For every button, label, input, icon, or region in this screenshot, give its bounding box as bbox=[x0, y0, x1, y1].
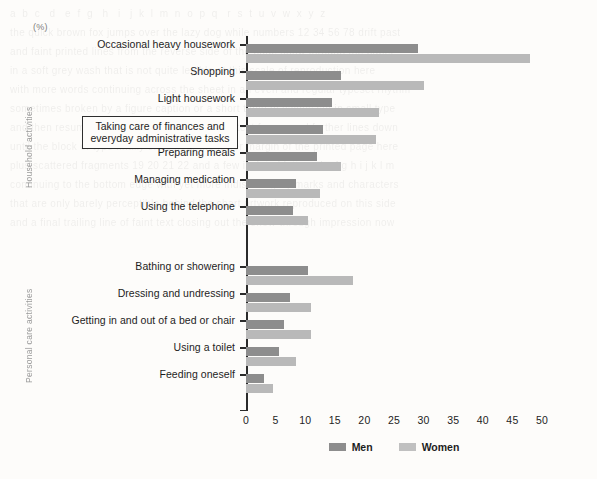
x-axis-tick-label: 10 bbox=[299, 414, 311, 426]
category-label: Light housework bbox=[158, 92, 235, 104]
category-label: Feeding oneself bbox=[160, 368, 235, 380]
bar-men bbox=[246, 98, 332, 107]
bar-men bbox=[246, 374, 264, 383]
x-axis-tick-label: 35 bbox=[447, 414, 459, 426]
category-label: Managing medication bbox=[134, 173, 235, 185]
x-axis-tick-label: 25 bbox=[388, 414, 400, 426]
bar-men bbox=[246, 293, 290, 302]
x-axis-tick-label: 20 bbox=[358, 414, 370, 426]
legend-swatch-women bbox=[399, 443, 416, 451]
bar-women bbox=[246, 216, 308, 225]
category-label-highlighted: Taking care of finances and everyday adm… bbox=[82, 116, 238, 149]
x-axis-tick-label: 0 bbox=[243, 414, 249, 426]
group-label-personal: Personal care activities bbox=[24, 266, 34, 406]
x-axis-tick-label: 15 bbox=[329, 414, 341, 426]
category-label: Shopping bbox=[190, 65, 235, 77]
bar-men bbox=[246, 347, 279, 356]
category-label: Preparing meals bbox=[158, 146, 235, 158]
legend-label-women: Women bbox=[422, 441, 460, 453]
x-axis-tick-label: 45 bbox=[506, 414, 518, 426]
legend-item-men[interactable]: Men bbox=[329, 441, 373, 453]
unit-label: (%) bbox=[33, 22, 48, 32]
bar-men bbox=[246, 320, 284, 329]
x-axis-tick-label: 5 bbox=[273, 414, 279, 426]
bar-men bbox=[246, 125, 323, 134]
category-label: Getting in and out of a bed or chair bbox=[72, 314, 236, 326]
bar-women bbox=[246, 357, 296, 366]
bar-women bbox=[246, 384, 273, 393]
bar-women bbox=[246, 135, 376, 144]
category-label: Using a toilet bbox=[174, 341, 235, 353]
legend-item-women[interactable]: Women bbox=[399, 441, 460, 453]
bar-women bbox=[246, 189, 320, 198]
chart-legend: MenWomen bbox=[246, 441, 542, 453]
category-label: Dressing and undressing bbox=[118, 287, 235, 299]
bar-women bbox=[246, 81, 424, 90]
bar-women bbox=[246, 108, 379, 117]
legend-label-men: Men bbox=[352, 441, 373, 453]
bar-men bbox=[246, 179, 296, 188]
x-axis-tick-label: 40 bbox=[477, 414, 489, 426]
category-label: Bathing or showering bbox=[135, 260, 235, 272]
bar-men bbox=[246, 206, 293, 215]
bar-women bbox=[246, 54, 530, 63]
category-label: Using the telephone bbox=[141, 200, 235, 212]
x-axis: 05101520253035404550 bbox=[246, 414, 542, 432]
bar-women bbox=[246, 330, 311, 339]
bar-men bbox=[246, 71, 341, 80]
plot-area: Occasional heavy houseworkShoppingLight … bbox=[246, 36, 542, 410]
x-axis-tick-label: 50 bbox=[536, 414, 548, 426]
bar-men bbox=[246, 266, 308, 275]
bar-women bbox=[246, 276, 353, 285]
category-label: Occasional heavy housework bbox=[97, 38, 235, 50]
legend-swatch-men bbox=[329, 443, 346, 451]
bar-men bbox=[246, 44, 418, 53]
group-label-household: Household activities bbox=[24, 55, 34, 240]
bar-men bbox=[246, 152, 317, 161]
bar-chart: (%) Household activities Personal care a… bbox=[0, 0, 597, 479]
bar-women bbox=[246, 162, 341, 171]
bar-women bbox=[246, 303, 311, 312]
x-axis-tick-label: 30 bbox=[418, 414, 430, 426]
